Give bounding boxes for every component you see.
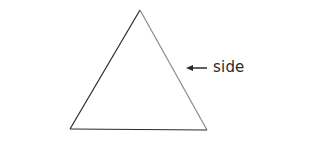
left-arrow-icon	[186, 65, 207, 71]
triangle-base	[70, 129, 207, 130]
triangle-left-side	[70, 10, 140, 129]
triangle-right-side	[140, 10, 207, 130]
side-label: side	[213, 58, 245, 76]
